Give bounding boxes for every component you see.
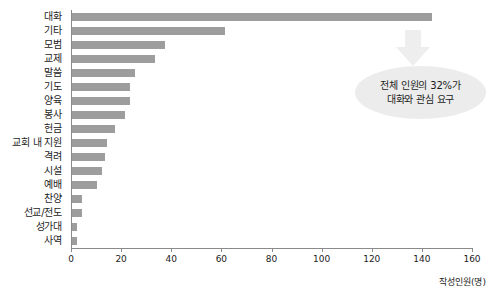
bar-row	[72, 150, 472, 164]
category-label: 선교/전도	[0, 206, 66, 220]
category-label: 예배	[0, 178, 66, 192]
annotation-line: 대화와 관심 요구	[387, 93, 455, 107]
bar-row	[72, 178, 472, 192]
bar-row	[72, 122, 472, 136]
category-label: 봉사	[0, 108, 66, 122]
bar	[72, 223, 77, 231]
category-label: 말씀	[0, 66, 66, 80]
category-label: 기타	[0, 24, 66, 38]
x-tick-mark	[71, 248, 72, 252]
x-tick-mark	[171, 248, 172, 252]
x-tick-mark	[322, 248, 323, 252]
bar	[72, 97, 130, 105]
bar	[72, 153, 105, 161]
x-tick-mark	[121, 248, 122, 252]
arrow-shaft	[405, 30, 421, 48]
category-label: 헌금	[0, 122, 66, 136]
x-tick-label: 60	[216, 254, 227, 264]
category-label: 모범	[0, 38, 66, 52]
category-label: 교제	[0, 52, 66, 66]
bar	[72, 41, 165, 49]
x-tick-label: 120	[363, 254, 380, 264]
x-axis-ticks: 020406080100120140160	[71, 248, 473, 278]
bar-chart: 대화 기타 모범 교제 말씀 기도 양육 봉사 헌금 교회 내 지원 격려 시설…	[0, 0, 496, 296]
bar-row	[72, 192, 472, 206]
x-tick-label: 0	[68, 254, 74, 264]
x-tick-label: 100	[313, 254, 330, 264]
category-label: 격려	[0, 150, 66, 164]
bar-row	[72, 10, 472, 24]
bar-row	[72, 164, 472, 178]
x-tick-mark	[472, 248, 473, 252]
x-tick-mark	[372, 248, 373, 252]
category-label: 성가대	[0, 220, 66, 234]
x-tick-mark	[422, 248, 423, 252]
bar-row	[72, 136, 472, 150]
x-axis-caption: 작성인원(명)	[439, 275, 486, 288]
bar	[72, 195, 82, 203]
bar	[72, 237, 77, 245]
category-label: 사역	[0, 234, 66, 248]
x-tick-label: 140	[413, 254, 430, 264]
x-tick-label: 160	[463, 254, 480, 264]
annotation-callout: 전체 인원의 32%가 대화와 관심 요구	[355, 66, 486, 119]
annotation-line: 전체 인원의 32%가	[380, 79, 460, 93]
category-axis-labels: 대화 기타 모범 교제 말씀 기도 양육 봉사 헌금 교회 내 지원 격려 시설…	[0, 10, 66, 248]
arrow-head	[396, 47, 430, 66]
x-tick-label: 20	[115, 254, 126, 264]
bar	[72, 125, 115, 133]
bar	[72, 111, 125, 119]
bar	[72, 139, 107, 147]
category-label: 교회 내 지원	[0, 136, 66, 150]
bar	[72, 167, 102, 175]
category-label: 찬양	[0, 192, 66, 206]
bar	[72, 83, 130, 91]
bar	[72, 55, 155, 63]
x-tick-label: 40	[166, 254, 177, 264]
bar	[72, 13, 432, 21]
category-label: 시설	[0, 164, 66, 178]
callout-arrow-icon	[396, 30, 430, 66]
bar	[72, 69, 135, 77]
bar	[72, 27, 225, 35]
bar-row	[72, 206, 472, 220]
bar	[72, 181, 97, 189]
x-tick-mark	[221, 248, 222, 252]
category-label: 기도	[0, 80, 66, 94]
bar-row	[72, 220, 472, 234]
x-tick-label: 80	[266, 254, 277, 264]
bar	[72, 209, 82, 217]
x-tick-mark	[272, 248, 273, 252]
bar-row	[72, 234, 472, 248]
category-label: 대화	[0, 10, 66, 24]
category-label: 양육	[0, 94, 66, 108]
